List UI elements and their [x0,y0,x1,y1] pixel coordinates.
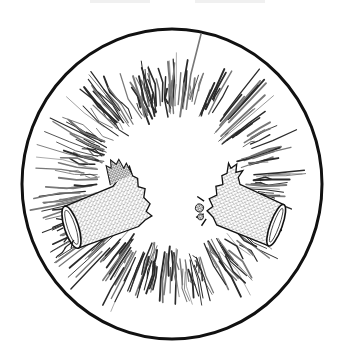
burst-ray-stroke [252,130,297,149]
left-firecracker-half [41,152,156,252]
burst-ray-stroke [103,241,130,280]
burst-ray-stroke [208,243,216,257]
burst-ray-stroke [186,34,201,110]
burst-ray-stroke [115,269,131,302]
burst-ray-stroke [180,259,183,285]
burst-ray-stroke [93,105,117,128]
burst-ray-stroke [156,79,160,106]
burst-ray-stroke [172,251,173,280]
burst-ray-stroke [136,257,148,295]
burst-ray-stroke [258,192,273,194]
explosion-burst-rays [30,34,305,312]
burst-ray-stroke [178,73,181,105]
burst-ray-stroke [158,69,163,102]
burst-ray-stroke [241,162,267,168]
top-crop-artifacts [90,0,265,3]
burst-ray-stroke [122,102,132,118]
burst-ray-stroke [168,247,170,276]
burst-ray-stroke [86,176,100,178]
burst-ray-stroke [109,239,133,274]
burst-ray-stroke [75,184,97,186]
firecracker-explosion-illustration [0,0,344,363]
burst-ray-stroke [228,81,260,118]
illustration-svg [0,0,344,363]
